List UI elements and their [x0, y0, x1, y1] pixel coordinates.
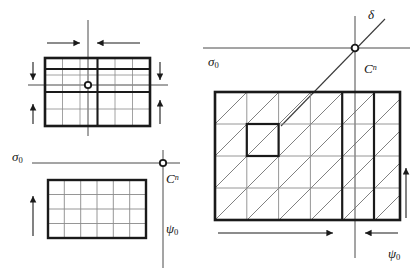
grid-thick-top-left	[45, 58, 150, 126]
panel-top-left	[28, 20, 168, 136]
arrows-right	[218, 168, 406, 233]
label-psi0-right: ψ0	[388, 247, 400, 262]
grid-thin-bottom-left	[48, 180, 146, 238]
label-sigma0-top-left: σ0	[12, 150, 23, 165]
panel-right	[203, 16, 410, 258]
center-marker-top-left	[85, 82, 91, 88]
label-cn-right: Cn	[364, 62, 377, 75]
panel-bottom-left	[32, 150, 180, 268]
origin-marker-right	[352, 45, 359, 52]
figure-root: σ0 Cn ψ0 σ0 δ Cn ψ0	[0, 0, 419, 274]
label-delta-right: δ	[368, 8, 374, 21]
label-cn-top-left: Cn	[166, 172, 179, 185]
grid-thin-right	[215, 92, 400, 220]
label-sigma0-right: σ0	[208, 55, 219, 70]
diagram-canvas	[0, 0, 419, 274]
label-psi0-top-left: ψ0	[166, 222, 178, 237]
origin-marker-bottom-left	[160, 160, 166, 166]
